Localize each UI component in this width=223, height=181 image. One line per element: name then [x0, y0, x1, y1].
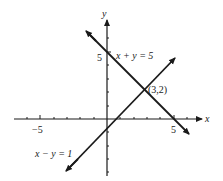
line1-label: x + y = 5 [115, 50, 153, 61]
x-tick-label-neg5: −5 [32, 124, 43, 135]
y-tick-label-5: 5 [97, 52, 102, 63]
line2-label: x − y = 1 [34, 148, 72, 159]
y-axis-label: y [101, 8, 107, 19]
x-axis-label: x [204, 113, 210, 124]
intersection-label: (3,2) [148, 84, 167, 96]
graph: y x −5 5 5 x + y = 5 (3,2) x − y = 1 [0, 0, 223, 181]
x-tick-label-5: 5 [171, 124, 176, 135]
line-x-minus-y-eq-1 [70, 58, 175, 167]
